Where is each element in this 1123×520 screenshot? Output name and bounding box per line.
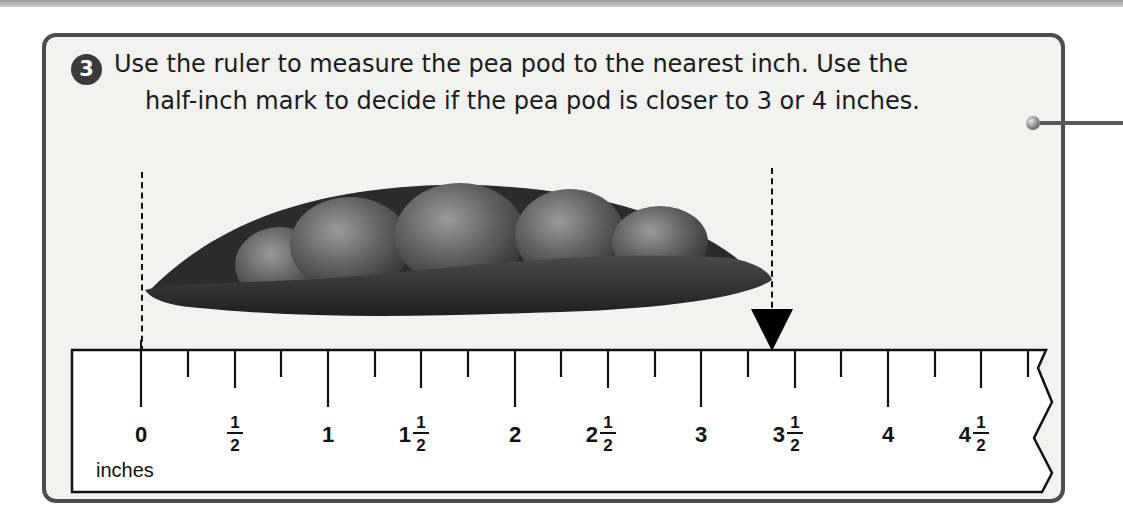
pea-pod-illustration [140, 180, 790, 320]
mark-label-4-half-whole: 4 [959, 422, 972, 447]
callout-connector-line [1040, 121, 1123, 125]
mark-label-2-half-whole: 2 [586, 422, 598, 447]
svg-text:1: 1 [416, 413, 425, 432]
svg-text:1: 1 [976, 413, 985, 432]
callout-connector-dot [1026, 116, 1040, 130]
page-top-edge [0, 0, 1123, 7]
svg-text:1: 1 [790, 413, 799, 432]
pod-end-guide-line [771, 168, 773, 318]
mark-label-2: 2 [509, 422, 521, 447]
pod-start-guide-line [141, 172, 143, 352]
mark-label-half-den: 2 [230, 436, 239, 455]
mark-label-0: 0 [135, 422, 147, 447]
svg-text:2: 2 [976, 436, 985, 455]
mark-label-3-half-whole: 3 [773, 422, 785, 447]
mark-label-1-half-whole: 1 [399, 422, 411, 447]
instruction-text: Use the ruler to measure the pea pod to … [114, 46, 1014, 120]
inch-ruler: 0 1 2 1 1 1 2 2 2 1 2 3 3 1 2 4 4 1 2 [60, 340, 1060, 500]
svg-text:2: 2 [790, 436, 799, 455]
svg-text:2: 2 [416, 436, 425, 455]
instruction-line-1: Use the ruler to measure the pea pod to … [114, 46, 1014, 83]
mark-label-4: 4 [882, 422, 895, 447]
mark-label-half-num: 1 [230, 413, 239, 432]
instruction-line-2: half-inch mark to decide if the pea pod … [114, 83, 1014, 120]
mark-label-1: 1 [322, 422, 334, 447]
step-number-badge: 3 [71, 54, 102, 85]
svg-text:1: 1 [603, 413, 612, 432]
ruler-unit-label: inches [96, 459, 154, 482]
mark-label-3: 3 [695, 422, 707, 447]
svg-text:2: 2 [603, 436, 612, 455]
